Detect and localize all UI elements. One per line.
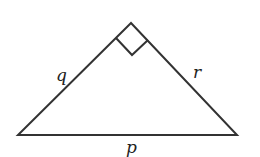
side-label-q: q xyxy=(56,65,67,85)
side-label-r: r xyxy=(193,62,202,82)
triangle xyxy=(18,23,237,135)
triangle-diagram: q r p xyxy=(0,0,260,157)
side-label-p: p xyxy=(126,137,137,157)
right-angle-marker xyxy=(116,38,148,55)
